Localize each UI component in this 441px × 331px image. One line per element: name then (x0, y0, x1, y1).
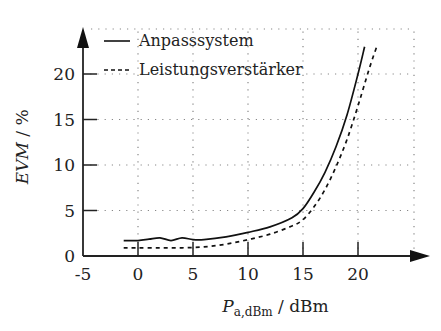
x-tick-label: 15 (292, 264, 314, 284)
legend: AnpasssystemLeistungsverstärker (104, 31, 303, 79)
evm-chart: -50510152005101520 AnpasssystemLeistungs… (0, 0, 441, 331)
y-tick-label: 15 (53, 110, 75, 130)
y-tick-label: 10 (53, 155, 75, 175)
y-axis-arrow-icon (77, 27, 89, 48)
tick-labels: -50510152005101520 (53, 64, 368, 284)
y-tick-label: 0 (64, 246, 75, 266)
x-tick-label: 20 (347, 264, 369, 284)
y-axis-label: EVM / % (12, 109, 32, 185)
x-tick-label: -5 (75, 264, 92, 284)
x-tick-label: 5 (188, 264, 199, 284)
x-tick-label: 10 (237, 264, 259, 284)
axis-labels: Pa,dBm / dBmEVM / % (12, 109, 329, 319)
legend-label: Anpasssystem (138, 31, 254, 50)
legend-label: Leistungsverstärker (139, 60, 303, 79)
x-axis-arrow-icon (410, 250, 430, 262)
y-tick-label: 20 (53, 64, 75, 84)
y-tick-label: 5 (64, 201, 75, 221)
x-tick-label: 0 (133, 264, 144, 284)
x-axis-label: Pa,dBm / dBm (221, 296, 328, 319)
